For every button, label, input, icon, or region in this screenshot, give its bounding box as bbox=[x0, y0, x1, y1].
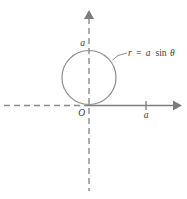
equation-leader-line bbox=[113, 53, 128, 60]
equation-variable-a: a bbox=[146, 48, 151, 58]
diagram-canvas: a O a r = a sin θ bbox=[0, 0, 187, 199]
equation-variable-theta: θ bbox=[170, 48, 175, 58]
equation-variable-r: r bbox=[128, 48, 132, 58]
origin-label: O bbox=[78, 108, 85, 118]
x-axis-arrowhead-icon bbox=[173, 101, 182, 111]
y-axis-tick-label: a bbox=[80, 38, 85, 48]
equation-equals-sign: = bbox=[136, 48, 141, 58]
x-axis-tick-label: a bbox=[144, 110, 149, 120]
polar-curve-figure: a O a r = a sin θ bbox=[0, 0, 187, 199]
y-axis-arrowhead-icon bbox=[84, 10, 94, 19]
equation-sin-function: sin bbox=[155, 48, 166, 58]
curve-equation-label: r = a sin θ bbox=[128, 48, 175, 58]
